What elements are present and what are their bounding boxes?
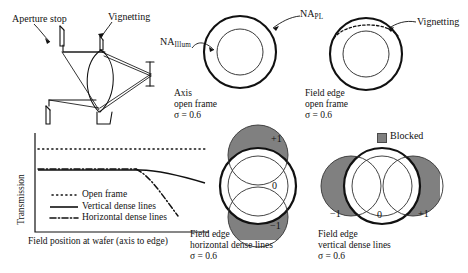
vdl-caption-line-2: vertical dense lines (318, 240, 391, 251)
fe-caption-line-1: Field edge (305, 88, 348, 99)
na-illum-label: NAIllum (160, 36, 191, 49)
axis-caption-line-1: Axis (174, 88, 217, 99)
order-zero-label-vertical: 0 (377, 209, 382, 220)
figure-root: Aperture stop Vignetting NAIllum NAPL Vi… (0, 0, 468, 273)
horizontal-pupil-caption: Field edge horizontal dense lines σ = 0.… (190, 229, 273, 263)
order-zero-label-horizontal: 0 (272, 180, 277, 191)
axis-caption-line-3: σ = 0.6 (174, 110, 217, 121)
legend-horizontal-dense-lines: Horizontal dense lines (82, 212, 167, 222)
chart-y-axis-label: Transmission (16, 174, 26, 225)
na-illum-prefix: NA (160, 36, 174, 47)
na-illum-subscript: Illum (174, 41, 191, 49)
axis-caption-line-2: open frame (174, 99, 217, 110)
series-vertical-dense-lines (38, 170, 205, 183)
na-pl-label: NAPL (300, 8, 323, 21)
fe-caption-line-3: σ = 0.6 (305, 110, 348, 121)
na-pl-subscript: PL (314, 13, 323, 21)
aperture-stop-label: Aperture stop (12, 13, 67, 24)
vignetting-label-schematic: Vignetting (108, 11, 150, 22)
order-minus1-label-vertical: −1 (330, 208, 341, 219)
blocked-legend-swatch (377, 133, 387, 143)
vdl-caption-line-1: Field edge (318, 229, 391, 240)
order-plus1-label-vertical: +1 (418, 208, 429, 219)
na-pl-prefix: NA (300, 8, 314, 19)
blocked-legend-label: Blocked (390, 130, 423, 141)
field-edge-pupil-caption: Field edge open frame σ = 0.6 (305, 88, 348, 122)
fe-caption-line-2: open frame (305, 99, 348, 110)
legend-open-frame: Open frame (82, 189, 127, 199)
chart-legend-samples (50, 195, 78, 218)
hdl-caption-line-2: horizontal dense lines (190, 240, 273, 251)
chart-x-axis-label: Field position at wafer (axis to edge) (28, 236, 168, 247)
axis-pupil-circles (204, 16, 276, 88)
vignetting-label-pupil: Vignetting (417, 16, 459, 27)
hdl-caption-line-1: Field edge (190, 229, 273, 240)
vdl-caption-line-3: σ = 0.6 (318, 251, 391, 262)
axis-pupil-caption: Axis open frame σ = 0.6 (174, 88, 217, 122)
hdl-caption-line-3: σ = 0.6 (190, 251, 273, 262)
legend-vertical-dense-lines: Vertical dense lines (82, 201, 156, 211)
vertical-pupil-caption: Field edge vertical dense lines σ = 0.6 (318, 229, 391, 263)
order-plus1-label-horizontal: +1 (271, 133, 282, 144)
